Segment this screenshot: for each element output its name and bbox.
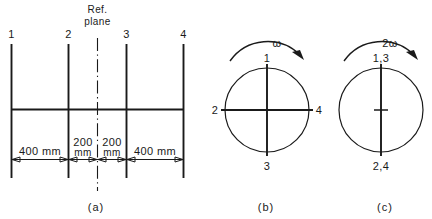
dimension-label-ref-3-unit: mm: [103, 147, 120, 158]
figure-container: 1 2 3 4 Ref. plane 400 mm 200 mm 200 mm …: [0, 0, 432, 219]
figure-canvas: 1 2 3 4 Ref. plane 400 mm 200 mm 200 mm …: [0, 0, 432, 219]
panel-a-caption: (a): [88, 201, 104, 213]
mass-label-left-b: 2: [212, 104, 219, 116]
mass-label-top-b: 1: [264, 52, 271, 64]
mass-label-bottom-c: 2,4: [373, 160, 390, 172]
panel-c-caption: (c): [377, 201, 393, 213]
mass-label-top-c: 1,3: [373, 52, 390, 64]
mass-label-right-b: 4: [316, 104, 323, 116]
ref-plane-label-line1: Ref.: [88, 4, 108, 15]
panel-c-angular-diagram: 2ω 1,3 2,4 (c): [339, 37, 423, 213]
rotation-arrowhead-c: [406, 50, 418, 60]
panel-a-shaft-elevation: 1 2 3 4 Ref. plane 400 mm 200 mm 200 mm …: [8, 4, 187, 213]
station-label-2: 2: [65, 28, 72, 40]
angular-velocity-label-b: ω: [273, 37, 282, 49]
dimension-label-2-ref-unit: mm: [74, 147, 91, 158]
station-label-4: 4: [180, 28, 187, 40]
dimension-label-1-2: 400 mm: [19, 145, 61, 157]
ref-plane-label-line2: plane: [84, 16, 111, 27]
panel-b-caption: (b): [258, 201, 274, 213]
station-label-3: 3: [123, 28, 130, 40]
mass-label-bottom-b: 3: [264, 160, 271, 172]
panel-b-angular-diagram: ω 1 2 4 3 (b): [212, 37, 323, 213]
dimension-label-3-4: 400 mm: [134, 145, 176, 157]
station-label-1: 1: [8, 28, 15, 40]
rotation-arrowhead-b: [292, 50, 304, 60]
angular-velocity-label-c: 2ω: [382, 37, 398, 49]
